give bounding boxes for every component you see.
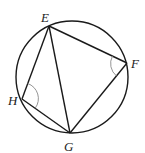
segment-FG bbox=[70, 63, 127, 133]
label-G: G bbox=[64, 139, 74, 153]
angle-mark-F bbox=[111, 56, 117, 76]
label-E: E bbox=[40, 10, 49, 25]
segment-HE bbox=[22, 26, 49, 99]
geometry-diagram: E F G H bbox=[0, 0, 145, 153]
segment-GH bbox=[22, 99, 70, 133]
circumcircle bbox=[16, 21, 128, 133]
segment-EF bbox=[49, 26, 127, 63]
label-H: H bbox=[7, 93, 18, 108]
label-F: F bbox=[130, 56, 140, 71]
segment-EG bbox=[49, 26, 70, 133]
